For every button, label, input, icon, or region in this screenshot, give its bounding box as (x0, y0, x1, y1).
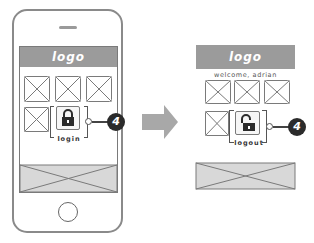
welcome-message: welcome, adrian (196, 71, 295, 79)
login-label: login (50, 135, 88, 143)
connector-dot (85, 118, 92, 125)
connector-dot (266, 123, 273, 130)
logout-label: logout (229, 139, 269, 147)
lock-closed-icon (56, 106, 80, 130)
annotation-badge: 4 (107, 113, 125, 131)
login-button[interactable] (56, 106, 80, 130)
logo-text: logo (229, 50, 262, 64)
connector-line (92, 121, 108, 123)
logout-button[interactable] (235, 111, 260, 135)
logo-header: logo (196, 45, 295, 69)
annotation-badge: 4 (288, 118, 306, 136)
connector-line (273, 126, 289, 128)
lock-open-icon (235, 111, 260, 135)
